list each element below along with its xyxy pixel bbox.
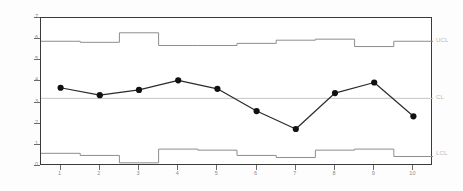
x-axis-tick-labels: 12345678910 (40, 165, 432, 185)
data-point-marker (254, 108, 260, 114)
upper-control-limit-step-line (41, 33, 433, 47)
x-tick-label: 1 (51, 171, 69, 177)
upper-control-limit-group (41, 33, 433, 47)
data-point-marker (175, 77, 181, 83)
lcl-label: LCL (436, 150, 448, 156)
x-tick-label: 5 (207, 171, 225, 177)
x-tick-label: 2 (90, 171, 108, 177)
ucl-label: UCL (436, 37, 449, 43)
data-point-marker (371, 79, 377, 85)
x-tick-label: 4 (168, 171, 186, 177)
data-series-group (61, 80, 414, 129)
plot-area (40, 17, 432, 165)
data-point-marker (214, 86, 220, 92)
data-point-marker (332, 90, 338, 96)
center-label: CL (436, 94, 444, 100)
lower-control-limit-step-line (41, 149, 433, 163)
x-tick-label: 3 (129, 171, 147, 177)
data-point-marker (97, 92, 103, 98)
data-line (61, 80, 414, 129)
data-point-marker (293, 126, 299, 132)
x-tick-label: 7 (286, 171, 304, 177)
x-tick-label: 8 (325, 171, 343, 177)
x-tick-label: 10 (403, 171, 421, 177)
data-point-marker (136, 87, 142, 93)
x-tick-label: 6 (247, 171, 265, 177)
lower-control-limit-group (41, 149, 433, 163)
control-chart: 76543210 12345678910 UCLCLLCL (0, 0, 463, 191)
data-point-marker (410, 113, 416, 119)
x-tick-label: 9 (364, 171, 382, 177)
data-point-marker (58, 85, 64, 91)
plot-svg (41, 18, 433, 166)
